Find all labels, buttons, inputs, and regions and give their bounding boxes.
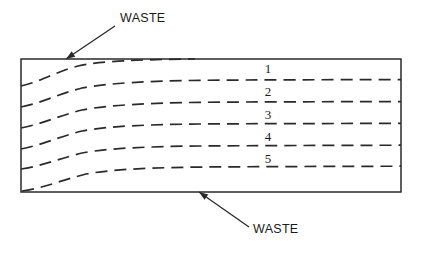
waste-bottom-label: WASTE (253, 222, 298, 236)
flow-line-group (21, 59, 401, 191)
zone-number-3: 3 (265, 107, 272, 122)
diagram-canvas: 1 2 3 4 5 WASTE WASTE (0, 0, 427, 255)
zone-number-1: 1 (265, 61, 272, 76)
waste-top-label: WASTE (120, 11, 165, 25)
flow-line-5 (22, 166, 401, 191)
waste-slab-diagram: 1 2 3 4 5 WASTE WASTE (0, 0, 427, 255)
waste-bottom-arrow-icon (199, 192, 208, 200)
zone-number-4: 4 (265, 129, 272, 144)
waste-top-callout: WASTE (66, 11, 165, 59)
flow-line-4 (21, 145, 401, 169)
waste-bottom-leader-line (199, 192, 249, 227)
zone-number-group: 1 2 3 4 5 (265, 61, 272, 166)
zone-number-2: 2 (265, 84, 272, 99)
waste-bottom-callout: WASTE (199, 192, 298, 236)
flow-line-0 (21, 59, 195, 86)
waste-top-arrow-icon (66, 51, 75, 59)
zone-number-5: 5 (265, 151, 272, 166)
